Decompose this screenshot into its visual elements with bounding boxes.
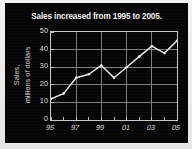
y-axis-title-line-1: Sales, [12,65,21,86]
plot-area [50,31,178,121]
chart-screenshot: Sales increased from 1995 to 2005. Sales… [0,0,192,149]
x-axis-tick-label: 03 [141,124,161,132]
y-axis-tick-label: 30 [34,62,48,69]
y-axis-tick-labels: 01020304050 [31,3,48,143]
y-axis-tick-label: 40 [34,45,48,52]
y-axis-tick-label: 20 [34,80,48,87]
y-axis-title: Sales, millions of dollars [7,29,31,121]
x-axis-tick-labels: 959799010305 [50,124,178,138]
plot-canvas [51,32,177,120]
x-axis-tick-label: 97 [65,124,85,132]
x-axis-tick-label: 01 [116,124,136,132]
chart-figure: Sales increased from 1995 to 2005. Sales… [5,3,188,143]
y-axis-tick-label: 10 [34,97,48,104]
x-axis-tick-label: 95 [40,124,60,132]
y-axis-tick-label: 50 [34,27,48,34]
x-axis-tick-label: 05 [166,124,186,132]
y-axis-tick-label: 0 [34,115,48,122]
x-axis-tick-label: 99 [91,124,111,132]
